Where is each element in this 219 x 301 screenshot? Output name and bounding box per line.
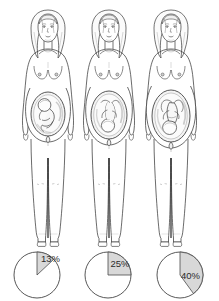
pregnant-woman-stage-2 bbox=[83, 10, 134, 246]
panel-stage-1: 13% bbox=[14, 10, 74, 298]
pie-label-25: 25% bbox=[111, 258, 131, 269]
pie-chart-13: 13% bbox=[14, 252, 61, 298]
panel-stage-2: 25% bbox=[83, 10, 134, 298]
panel-stage-3: 40% bbox=[145, 10, 203, 298]
pie-chart-40: 40% bbox=[157, 252, 203, 298]
pregnant-woman-stage-1 bbox=[22, 10, 73, 246]
pie-chart-25: 25% bbox=[85, 252, 131, 298]
illustration-canvas: 13% 25% bbox=[0, 0, 219, 301]
pie-label-13: 13% bbox=[41, 253, 61, 264]
pie-label-40: 40% bbox=[181, 270, 201, 281]
pregnancy-stages-illustration: 13% 25% bbox=[0, 0, 219, 301]
pregnant-woman-stage-3 bbox=[145, 10, 196, 246]
